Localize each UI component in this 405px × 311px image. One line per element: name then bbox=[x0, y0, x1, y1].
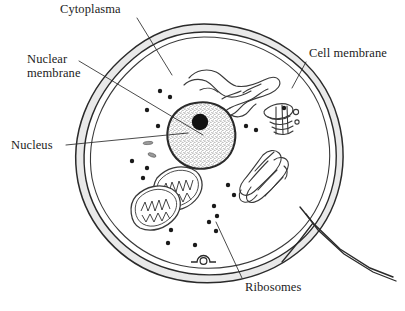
cell-diagram: Cytoplasma Nuclearmembrane Nucleus Cell … bbox=[0, 0, 405, 311]
label-nuclear-membrane-line1: Nuclear bbox=[27, 52, 67, 66]
label-nuclear-membrane: Nuclearmembrane bbox=[27, 53, 81, 80]
golgi-apparatus bbox=[264, 104, 299, 135]
cell-membrane bbox=[76, 24, 396, 283]
membrane-pore bbox=[191, 256, 216, 265]
leader-ribosomes bbox=[216, 222, 242, 278]
label-nucleus: Nucleus bbox=[11, 139, 53, 153]
mitochondrion-2 bbox=[131, 186, 180, 230]
label-cytoplasma: Cytoplasma bbox=[60, 3, 121, 17]
lysosomes bbox=[143, 141, 157, 158]
golgi-apparatus-secondary bbox=[239, 151, 288, 203]
label-ribosomes: Ribosomes bbox=[245, 281, 301, 295]
label-cell-membrane: Cell membrane bbox=[309, 47, 387, 61]
clipped-caption-strip bbox=[0, 301, 405, 311]
label-nuclear-membrane-line2: membrane bbox=[27, 66, 81, 80]
nucleus bbox=[167, 102, 235, 168]
nucleolus bbox=[192, 114, 208, 130]
